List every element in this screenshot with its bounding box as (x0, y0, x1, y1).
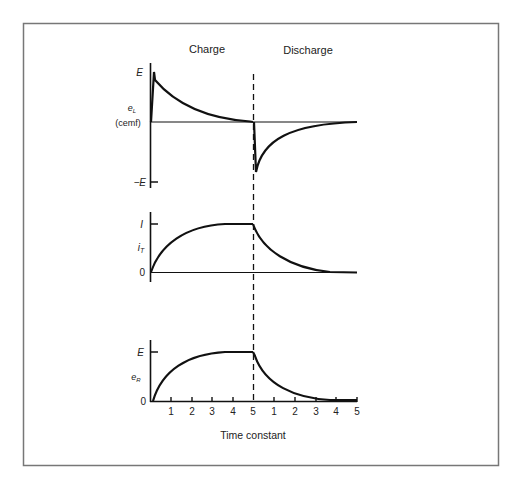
svg-text:4: 4 (230, 406, 236, 417)
svg-text:1: 1 (168, 406, 174, 417)
svg-text:5: 5 (354, 406, 360, 417)
ylabel-el: eL (128, 103, 136, 114)
rl-charge-discharge-diagram: Charge Discharge E −E eL (cemf) I 0 iT E… (0, 0, 523, 481)
ylabel-er: eR (131, 372, 141, 383)
tick-label-zero: 0 (139, 267, 145, 278)
tick-label-i: I (140, 219, 143, 230)
discharge-tick-labels: 1 2 3 4 5 (271, 406, 360, 417)
er-charge-curve (153, 352, 253, 401)
charge-tick-labels: 1 2 3 4 5 (168, 406, 256, 417)
discharge-label: Discharge (283, 44, 333, 56)
svg-text:3: 3 (313, 406, 319, 417)
it-charge-curve (151, 224, 253, 272)
tick-label-zero: 0 (140, 396, 146, 407)
svg-text:4: 4 (333, 406, 339, 417)
er-discharge-curve (253, 352, 357, 400)
panel-total-current: I 0 iT (138, 212, 357, 282)
tick-label-e: E (137, 347, 144, 358)
panel-inductor-voltage: E −E eL (cemf) (115, 63, 357, 188)
el-discharge-curve (254, 122, 357, 172)
el-charge-curve (151, 72, 253, 122)
ylabel-cemf: (cemf) (115, 118, 141, 128)
svg-text:2: 2 (189, 406, 195, 417)
charge-label: Charge (189, 43, 225, 55)
svg-text:2: 2 (292, 406, 298, 417)
svg-text:3: 3 (209, 406, 215, 417)
svg-text:5: 5 (250, 406, 256, 417)
figure-frame (24, 24, 499, 466)
ylabel-it: iT (138, 242, 145, 254)
tick-label-neg-e: −E (133, 177, 146, 188)
panel-resistor-voltage: E 0 eR 1 2 3 4 5 1 2 3 4 5 (131, 340, 360, 417)
svg-text:1: 1 (271, 406, 277, 417)
tick-label-e: E (136, 67, 143, 78)
it-discharge-curve (253, 224, 357, 273)
x-axis-label: Time constant (220, 429, 286, 441)
